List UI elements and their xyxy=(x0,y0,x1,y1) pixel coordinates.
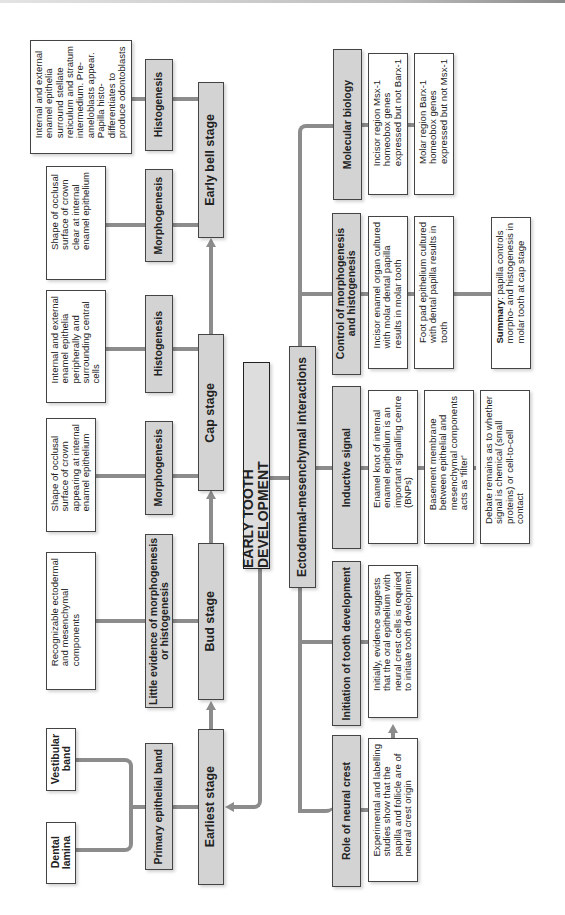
connector xyxy=(298,588,334,813)
top-edge-bar xyxy=(0,0,565,3)
molecular-item-1: Incisor region Msx-1 homeobox genes expr… xyxy=(368,53,408,195)
connector xyxy=(315,466,333,470)
connector xyxy=(75,758,133,852)
neural-crest-text: Experimental and labelling studies show … xyxy=(368,738,418,882)
connector xyxy=(298,292,333,296)
inductive-item-1: Enamel knot of internal enamel epitheliu… xyxy=(368,390,418,544)
control-of-morpho-histogenesis: Control of morphogenesis and histogenesi… xyxy=(332,213,361,375)
bud-text: Recognizable ectodermal and mesenchymal … xyxy=(46,552,96,690)
connector xyxy=(172,347,198,351)
role-of-neural-crest: Role of neural crest xyxy=(332,735,361,887)
bud-sub-label: Little evidence of morphogenesis or hist… xyxy=(145,534,173,708)
initiation-text: Initially, evidence suggests that the or… xyxy=(368,565,418,718)
connector xyxy=(298,640,333,644)
bell-histogenesis: Histogenesis xyxy=(145,59,173,151)
connector xyxy=(96,474,145,478)
arrow-up-icon xyxy=(206,490,216,499)
initiation-of-tooth-development: Initiation of tooth development xyxy=(332,561,361,726)
connector xyxy=(132,805,145,809)
connector xyxy=(96,619,145,623)
cap-histo-text: Internal and external enamel epithelia p… xyxy=(46,290,106,403)
connector xyxy=(105,223,145,227)
control-item-1: Incisor enamel organ cultured with molar… xyxy=(368,216,408,369)
arrow-left-icon xyxy=(225,802,234,812)
inductive-item-3: Debate remains as to whether signal is c… xyxy=(480,390,530,544)
arrow-up-icon xyxy=(206,238,216,247)
cap-histogenesis: Histogenesis xyxy=(145,295,173,393)
stage-early-bell: Early bell stage xyxy=(198,82,224,238)
connector xyxy=(298,124,334,346)
stage-earliest: Earliest stage xyxy=(198,729,224,885)
inductive-item-2: Basement membrane between epithelial and… xyxy=(424,390,474,544)
connector xyxy=(172,619,198,623)
stage-cap: Cap stage xyxy=(198,334,224,491)
bell-morphogenesis: Morphogenesis xyxy=(145,169,173,262)
connector xyxy=(105,347,145,351)
connector xyxy=(172,223,198,227)
primary-epithelial-band: Primary epithelial band xyxy=(145,743,173,870)
bell-morph-text: Shape of occlusal surface of crown clear… xyxy=(46,166,106,280)
cap-morphogenesis: Morphogenesis xyxy=(145,421,173,515)
molecular-biology: Molecular biology xyxy=(333,49,362,200)
connector xyxy=(209,709,213,729)
connector xyxy=(172,474,198,478)
connector xyxy=(269,476,289,480)
connector xyxy=(172,805,198,809)
diagram-title: EARLY TOOTH DEVELOPMENT xyxy=(243,362,270,569)
arrow-up-icon xyxy=(206,701,216,710)
connector xyxy=(209,497,213,543)
control-item-2: Foot pad epithelium cultured with dental… xyxy=(414,216,454,369)
connector xyxy=(232,569,262,809)
stage-bud: Bud stage xyxy=(198,543,224,700)
ectodermal-mesenchymal-interactions: Ectodermal-mesenchymal interactions xyxy=(289,346,316,588)
cap-morph-text: Shape of occlusal surface of crown appea… xyxy=(46,418,96,532)
dental-lamina: Dental lamina xyxy=(46,822,76,884)
connector xyxy=(172,97,198,101)
connector xyxy=(209,246,213,334)
inductive-signal: Inductive signal xyxy=(332,386,361,549)
connector xyxy=(132,97,145,101)
molecular-item-2: Molar region Barx-1 homeobox genes expre… xyxy=(414,53,454,195)
control-summary: Summary: papilla controls morpho- and hi… xyxy=(491,217,531,369)
vestibular-band: Vestibular band xyxy=(46,728,76,791)
bell-histo-text: Internal and external enamel epithelia s… xyxy=(30,40,132,154)
arrow-up-icon xyxy=(388,724,398,733)
